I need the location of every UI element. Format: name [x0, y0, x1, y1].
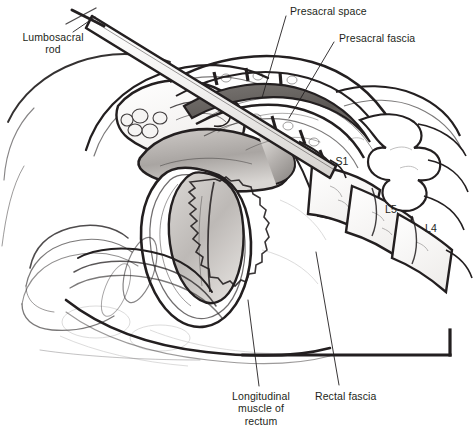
leader-rectal-fascia — [316, 252, 339, 385]
label-rectal-fascia: Rectal fascia — [315, 390, 376, 402]
label-presacral-fascia: Presacral fascia — [339, 32, 415, 44]
bone-label-s1: S1 — [333, 155, 351, 167]
bone-label-l4: L4 — [422, 222, 440, 234]
dissection-reference-line — [243, 330, 450, 355]
illustration-canvas: Lumbosacral rod Presacral space Presacra… — [0, 0, 474, 426]
label-longitudinal-muscle-of-rectum: Longitudinal muscle of rectum — [219, 390, 303, 426]
label-lumbosacral-rod: Lumbosacral rod — [13, 31, 93, 56]
anatomy-illustration — [0, 0, 474, 426]
label-presacral-space: Presacral space — [290, 5, 367, 17]
leader-longitudinal-muscle — [248, 300, 259, 386]
lumbar-vertebrae — [308, 86, 472, 292]
bone-label-l5: L5 — [382, 203, 400, 215]
